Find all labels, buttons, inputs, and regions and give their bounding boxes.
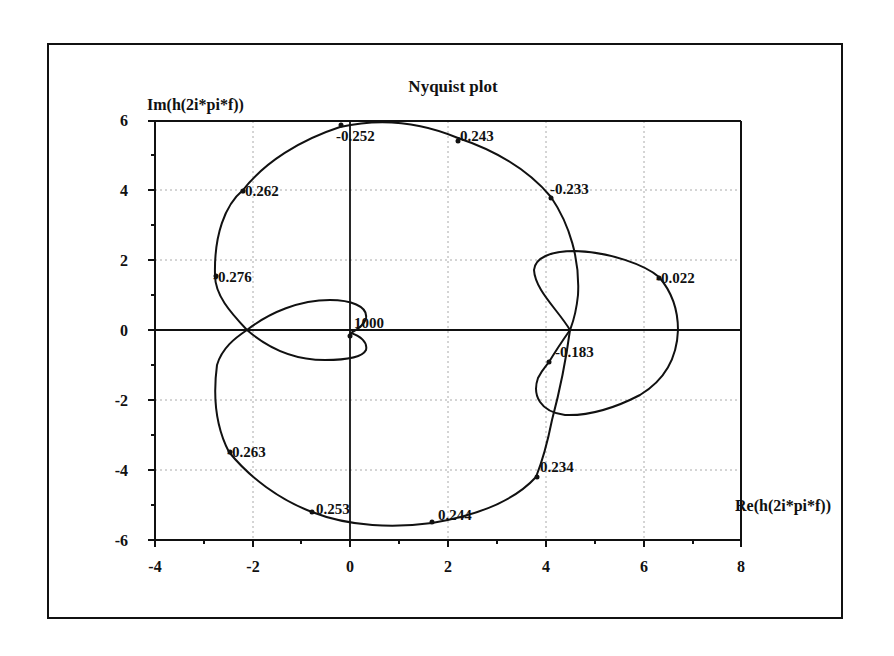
zero-axes [148, 121, 741, 540]
plot-area-border [148, 121, 741, 547]
point-label: 1000 [354, 315, 384, 331]
y-tick: 0 [120, 322, 128, 339]
point-label: 0.244 [438, 507, 472, 523]
point-label: -0.262 [240, 183, 279, 199]
point-label: -0.022 [656, 270, 695, 286]
point-label: -0.233 [550, 181, 589, 197]
point-label: 0.234 [540, 459, 574, 475]
x-axis-label: Re(h(2i*pi*f)) [735, 497, 831, 515]
x-tick: -2 [246, 558, 259, 575]
y-tick: -4 [115, 462, 128, 479]
x-tick: -4 [148, 558, 161, 575]
point-label: -0.252 [336, 128, 375, 144]
nyquist-chart: Nyquist plot Im(h(2i*pi*f)) Re(h(2i*pi*f… [0, 0, 894, 656]
x-tick: 0 [346, 558, 354, 575]
y-tick: -2 [115, 392, 128, 409]
y-axis-label: Im(h(2i*pi*f)) [147, 96, 244, 114]
point-label: -0.183 [555, 344, 594, 360]
x-tick: 6 [640, 558, 648, 575]
point-label: -0.276 [213, 269, 252, 285]
x-tick: 2 [444, 558, 452, 575]
curve-markers [214, 123, 662, 525]
point-labels: -0.252 -0.243 -0.262 -0.233 -0.276 -0.02… [213, 128, 695, 523]
y-tick: 4 [120, 182, 128, 199]
chart-title: Nyquist plot [408, 77, 498, 96]
point-label: -0.263 [227, 444, 266, 460]
point-label: 0.253 [316, 501, 350, 517]
point-label: -0.243 [455, 128, 494, 144]
y-tick: -6 [115, 532, 128, 549]
y-tick-labels: 6 4 2 0 -2 -4 -6 [115, 112, 128, 549]
axis-ticks [148, 155, 693, 547]
y-tick: 2 [120, 252, 128, 269]
y-tick: 6 [120, 112, 128, 129]
x-tick: 4 [542, 558, 550, 575]
x-tick-labels: -4 -2 0 2 4 6 8 [148, 558, 745, 575]
x-tick: 8 [737, 558, 745, 575]
